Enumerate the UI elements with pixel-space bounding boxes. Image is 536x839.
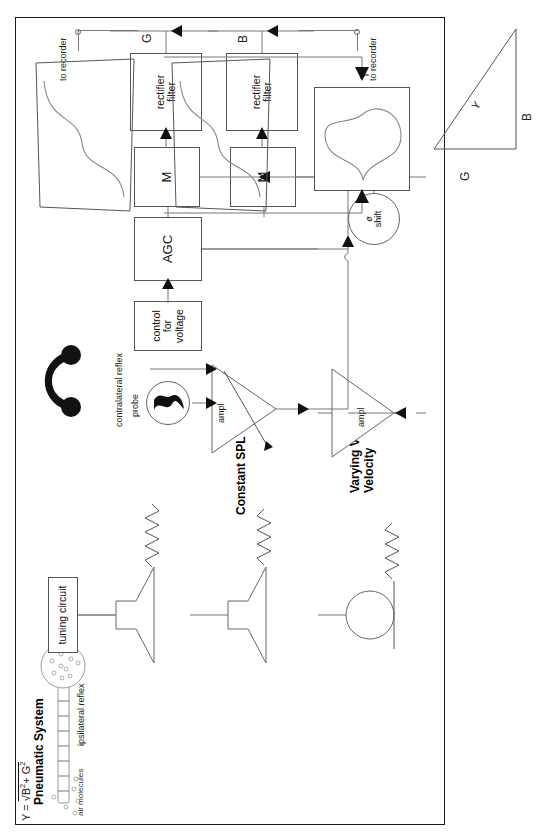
pythagoras-triangle [424, 0, 536, 173]
g-recorder-lead [78, 33, 79, 51]
triangle-side-b-label: B [520, 113, 534, 121]
y-box-feed-arrows [294, 1, 434, 261]
waveform-plot-g [34, 53, 156, 213]
triangle-side-g-label: G [458, 172, 472, 181]
waveform-plot-b [170, 53, 292, 213]
g-node-bus [78, 30, 138, 31]
figure-border: Pneumatic System [15, 17, 445, 825]
schematic-stage: Pneumatic System [18, 21, 442, 821]
g-lead-stub [78, 31, 79, 32]
